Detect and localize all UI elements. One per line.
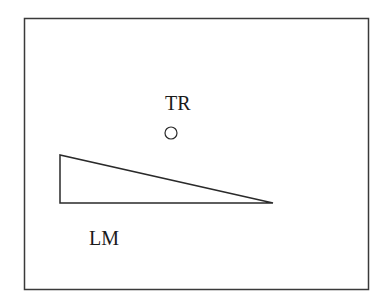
trajector-label: TR bbox=[165, 92, 191, 114]
trajector-circle bbox=[165, 127, 177, 139]
frame-border bbox=[25, 19, 369, 290]
diagram-canvas: TR LM bbox=[0, 0, 389, 306]
landmark-label: LM bbox=[89, 227, 119, 249]
landmark-triangle bbox=[60, 155, 273, 203]
